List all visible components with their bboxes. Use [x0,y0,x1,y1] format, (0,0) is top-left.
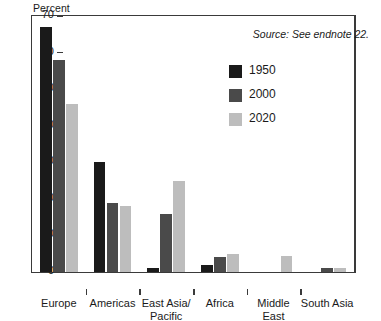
bar-chart: Percent Source: See endnote 22. 01020304… [0,0,381,321]
legend-label-1950: 1950 [249,62,276,79]
x-axis-category-label: South Asia [292,297,362,310]
bar [173,181,185,272]
y-axis-tick-label: 70 [42,8,54,20]
bar [94,162,106,272]
bar [334,268,346,272]
x-axis-category-label-line: Americas [90,297,136,309]
y-axis-tick-mark [57,52,63,54]
x-axis-tick-mark [193,289,195,295]
x-axis-category-label-line: East [239,310,309,321]
x-axis-category-label-line: Europe [41,297,76,309]
legend-swatch-2020 [229,113,242,126]
bar [214,257,226,272]
bar [147,268,159,272]
bar [40,27,52,272]
bar [107,203,119,272]
x-axis-tick-mark [300,289,302,295]
bar [66,104,78,272]
x-axis-category-label-line: Middle [257,297,289,309]
x-axis-tick-mark [139,289,141,295]
legend-label-2000: 2000 [249,86,276,103]
plot-area: 010203040506070 EuropeAmericasEast Asia/… [32,16,354,272]
bar [160,214,172,273]
x-axis-category-label-line: Pacific [131,310,201,321]
bar [53,60,65,272]
x-axis-category-label-line: East Asia/ [142,297,191,309]
bar [201,265,213,272]
x-axis-category-label-line: South Asia [301,297,354,309]
bar [321,268,333,272]
x-axis-category-label-line: Africa [206,297,234,309]
bar [281,256,293,272]
y-axis-tick-mark [57,15,63,17]
bar [120,206,132,272]
x-axis-tick-mark [86,289,88,295]
legend-label-2020: 2020 [249,110,276,127]
bar [227,254,239,272]
legend-swatch-1950 [229,65,242,78]
legend-swatch-2000 [229,89,242,102]
x-axis-tick-mark [247,289,249,295]
